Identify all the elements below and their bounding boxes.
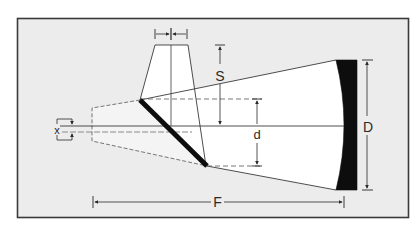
secondary-diameter-label: d xyxy=(253,127,260,142)
secondary-offset-label: S xyxy=(215,68,224,84)
newtonian-telescope-diagram: l S d D F x xyxy=(0,0,420,233)
focal-length-label: F xyxy=(213,194,222,210)
focus-offset-label: x xyxy=(54,124,60,136)
primary-diameter-label: D xyxy=(363,119,373,135)
